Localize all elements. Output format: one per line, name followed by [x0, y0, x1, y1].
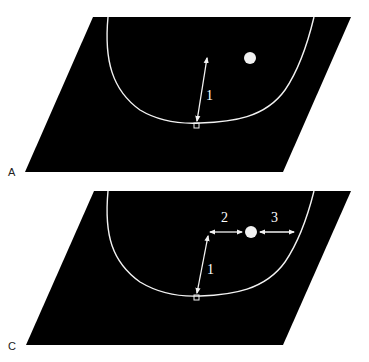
arrow-3-label: 3 [271, 210, 278, 225]
plane [25, 17, 351, 172]
plane [26, 191, 351, 345]
arrow-1-label: 1 [206, 88, 213, 103]
panel-label-c: C [8, 340, 16, 352]
white-dot [244, 52, 256, 64]
panel-c: 1 2 3 C [8, 191, 351, 352]
panel-label-a: A [8, 166, 16, 178]
arrow-1-label: 1 [207, 262, 214, 277]
arrow-2-label: 2 [221, 210, 228, 225]
white-dot [245, 226, 257, 238]
figure-canvas: 1 A 1 2 3 C [0, 0, 369, 362]
panel-a: 1 A [8, 17, 351, 178]
